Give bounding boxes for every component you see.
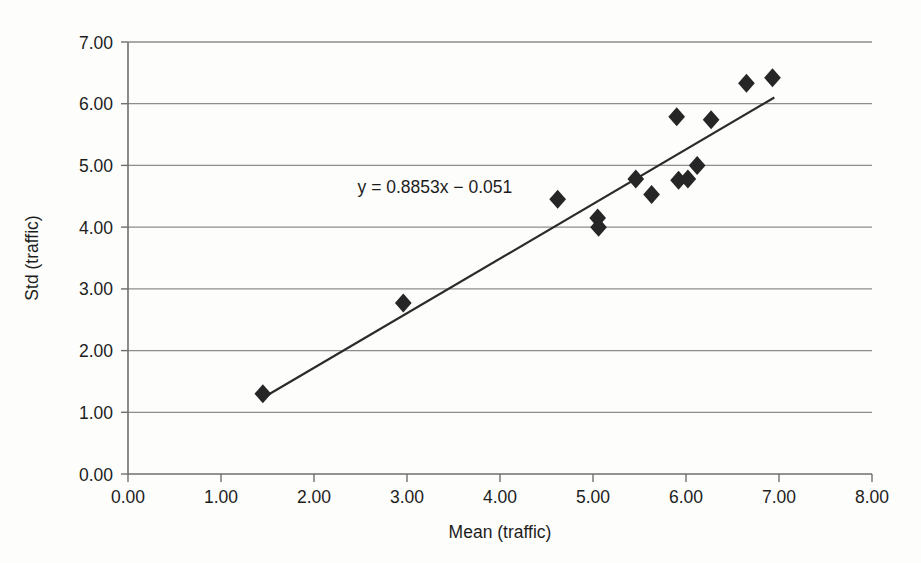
x-tick-label: 2.00: [297, 487, 331, 507]
x-tick-label: 8.00: [855, 487, 889, 507]
gridlines: [128, 42, 872, 412]
x-tick-label: 7.00: [762, 487, 796, 507]
y-tick-label: 0.00: [79, 465, 113, 485]
data-point: [689, 156, 706, 175]
x-tick-label: 5.00: [576, 487, 610, 507]
trendline-equation-label: y = 0.8853x − 0.051: [358, 177, 513, 197]
y-tick-labels: 7.00 6.00 5.00 4.00 3.00 2.00 1.00 0.00: [79, 33, 113, 485]
data-point: [627, 170, 644, 189]
trendline: [260, 97, 774, 399]
y-axis-title: Std (traffic): [22, 215, 42, 300]
y-tick-label: 6.00: [79, 94, 113, 114]
data-point: [703, 110, 720, 129]
chart-canvas: 7.00 6.00 5.00 4.00 3.00 2.00 1.00 0.00 …: [0, 0, 921, 563]
x-tick-label: 3.00: [390, 487, 424, 507]
x-axis-title: Mean (traffic): [449, 522, 552, 542]
data-point: [395, 294, 412, 313]
x-tick-label: 0.00: [111, 487, 145, 507]
x-tick-label: 1.00: [204, 487, 238, 507]
data-point: [668, 107, 685, 126]
x-tick-labels: 0.00 1.00 2.00 3.00 4.00 5.00 6.00 7.00 …: [111, 487, 889, 507]
scatter-chart: 7.00 6.00 5.00 4.00 3.00 2.00 1.00 0.00 …: [0, 0, 921, 563]
y-tick-label: 7.00: [79, 33, 113, 53]
y-tick-marks: [121, 42, 128, 474]
data-point: [643, 185, 660, 204]
x-tick-marks: [128, 474, 872, 482]
y-tick-label: 1.00: [79, 403, 113, 423]
data-point: [764, 68, 781, 87]
y-tick-label: 2.00: [79, 341, 113, 361]
x-tick-label: 6.00: [669, 487, 703, 507]
data-point: [738, 74, 755, 93]
y-tick-label: 4.00: [79, 218, 113, 238]
data-point: [549, 190, 566, 209]
data-point-group: [254, 68, 780, 403]
data-point: [254, 384, 271, 403]
x-tick-label: 4.00: [483, 487, 517, 507]
y-tick-label: 3.00: [79, 279, 113, 299]
y-tick-label: 5.00: [79, 156, 113, 176]
